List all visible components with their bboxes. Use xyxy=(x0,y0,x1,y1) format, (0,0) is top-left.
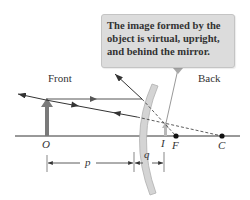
image-distance-label: q xyxy=(144,148,150,160)
back-label: Back xyxy=(198,72,221,84)
ray-direction-arrow xyxy=(71,102,79,108)
reflected-ray-2 xyxy=(18,94,46,100)
object-label: O xyxy=(42,138,50,150)
callout-box: The image formed by the object is virtua… xyxy=(101,14,235,68)
object-distance-label: p xyxy=(85,156,91,168)
front-label: Front xyxy=(48,72,72,84)
callout-pointer-tip xyxy=(173,68,183,74)
callout-pointer xyxy=(166,69,178,123)
center-point-dot xyxy=(219,133,224,138)
image-label: I xyxy=(161,137,165,149)
convex-mirror xyxy=(139,84,158,195)
reflected-ray-1 xyxy=(115,74,142,99)
object-arrow xyxy=(41,98,53,136)
ray-direction-arrow xyxy=(113,111,121,117)
center-label: C xyxy=(218,139,225,151)
virtual-extension-to-center xyxy=(137,117,222,136)
callout-line-1: The image formed by the xyxy=(107,19,229,32)
incident-ray-toward-center xyxy=(46,100,137,117)
callout-line-3: and behind the mirror. xyxy=(107,45,229,58)
ray-direction-arrow xyxy=(90,96,97,102)
focal-label: F xyxy=(172,139,179,151)
focal-point-dot xyxy=(173,133,178,138)
callout-line-2: object is virtual, upright, xyxy=(107,32,229,45)
